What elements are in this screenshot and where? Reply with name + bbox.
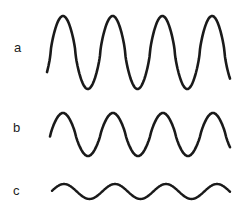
wave-a bbox=[47, 16, 230, 89]
wave-c bbox=[52, 184, 230, 199]
waves-figure bbox=[0, 0, 245, 207]
wave-b bbox=[50, 113, 230, 156]
